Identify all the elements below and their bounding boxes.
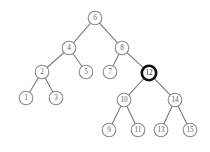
- tree-edge-2-1: [30, 78, 39, 92]
- tree-node-4[interactable]: 4: [62, 41, 76, 55]
- tree-node-circle[interactable]: [183, 123, 197, 137]
- tree-node-circle[interactable]: [79, 65, 93, 79]
- tree-node-circle[interactable]: [131, 123, 145, 137]
- tree-node-12[interactable]: 12: [142, 66, 156, 80]
- tree-edge-8-12: [127, 53, 143, 68]
- tree-edge-8-7: [113, 54, 119, 65]
- tree-node-circle[interactable]: [102, 123, 116, 137]
- tree-edge-12-10: [129, 79, 144, 95]
- tree-node-6[interactable]: 6: [88, 11, 102, 25]
- tree-node-9[interactable]: 9: [102, 123, 116, 137]
- tree-edge-4-5: [73, 54, 82, 66]
- tree-node-10[interactable]: 10: [117, 93, 131, 107]
- tree-edge-14-13: [164, 106, 172, 123]
- tree-node-8[interactable]: 8: [115, 41, 129, 55]
- tree-node-circle[interactable]: [88, 11, 102, 25]
- tree-node-11[interactable]: 11: [131, 123, 145, 137]
- tree-node-circle[interactable]: [62, 41, 76, 55]
- tree-node-13[interactable]: 13: [154, 123, 168, 137]
- tree-node-circle[interactable]: [154, 123, 168, 137]
- tree-edge-6-4: [74, 23, 91, 42]
- tree-edge-2-3: [45, 78, 52, 92]
- tree-edge-10-9: [112, 106, 121, 123]
- tree-node-circle[interactable]: [19, 91, 33, 105]
- binary-search-tree-diagram: 648257121310149111315: [0, 0, 210, 152]
- tree-edge-14-15: [178, 106, 187, 123]
- tree-edge-4-2: [47, 53, 63, 68]
- tree-node-circle[interactable]: [115, 41, 129, 55]
- tree-node-7[interactable]: 7: [103, 65, 117, 79]
- tree-node-circle[interactable]: [49, 91, 63, 105]
- tree-nodes-group: 648257121310149111315: [19, 11, 197, 137]
- tree-node-circle[interactable]: [117, 93, 131, 107]
- tree-node-3[interactable]: 3: [49, 91, 63, 105]
- tree-node-2[interactable]: 2: [35, 65, 49, 79]
- tree-node-circle[interactable]: [168, 93, 182, 107]
- tree-node-1[interactable]: 1: [19, 91, 33, 105]
- tree-node-circle[interactable]: [35, 65, 49, 79]
- tree-edge-6-8: [100, 23, 118, 42]
- tree-node-circle[interactable]: [103, 65, 117, 79]
- tree-node-circle-highlighted[interactable]: [142, 66, 156, 80]
- tree-node-15[interactable]: 15: [183, 123, 197, 137]
- tree-edge-12-14: [154, 78, 170, 94]
- tree-edge-10-11: [127, 106, 135, 123]
- tree-node-5[interactable]: 5: [79, 65, 93, 79]
- tree-canvas: 648257121310149111315: [0, 0, 210, 152]
- tree-node-14[interactable]: 14: [168, 93, 182, 107]
